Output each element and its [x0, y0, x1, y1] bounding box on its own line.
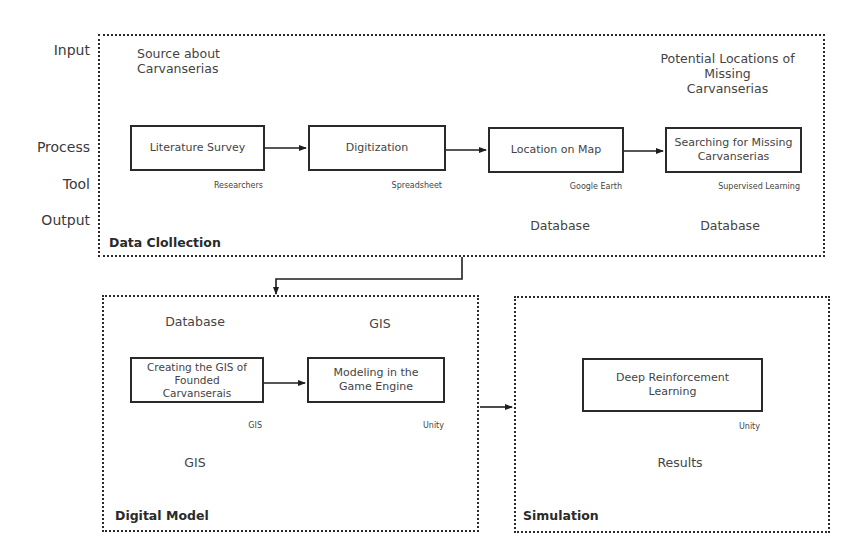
step-digitization: Digitization	[308, 125, 446, 171]
section-title-digital-model: Digital Model	[115, 508, 209, 523]
tool-label: GIS	[200, 421, 262, 430]
dc-output: Database	[670, 218, 790, 233]
step-label: Deep Reinforcement	[616, 371, 729, 385]
step-label: Creating the GIS of	[147, 361, 247, 374]
row-label-output: Output	[10, 212, 90, 228]
step-label: Founded	[174, 374, 219, 387]
dm-input-right: GIS	[350, 316, 410, 331]
tool-label: Researchers	[180, 181, 263, 190]
step-label: Carvanserais	[163, 387, 231, 400]
step-label: Searching for Missing	[675, 136, 793, 150]
step-label: Modeling in the	[333, 366, 418, 380]
dc-input-left-line: Carvanserias	[137, 61, 220, 76]
dc-input-right: Potential Locations of Missing Carvanser…	[640, 51, 815, 96]
arrow-data-collection-to-digital-model	[276, 257, 462, 294]
dc-input-left-line: Source about	[137, 46, 220, 61]
digital-model-section	[102, 295, 479, 532]
step-label: Digitization	[346, 141, 409, 155]
step-label: Literature Survey	[150, 141, 246, 155]
tool-label: Unity	[380, 421, 444, 430]
row-label-process: Process	[10, 139, 90, 155]
dc-output: Database	[500, 218, 620, 233]
tool-label: Supervised Learning	[680, 182, 800, 191]
dc-input-right-line: Missing	[640, 66, 815, 81]
row-label-tool: Tool	[10, 176, 90, 192]
section-title-data-collection: Data Clollection	[109, 235, 221, 250]
step-location-on-map: Location on Map	[488, 127, 624, 173]
tool-label: Unity	[700, 422, 760, 431]
step-label: Learning	[649, 385, 697, 399]
step-deep-reinforcement-learning: Deep Reinforcement Learning	[582, 358, 763, 412]
step-modeling-game-engine: Modeling in the Game Engine	[307, 357, 445, 403]
step-label: Carvanserias	[698, 150, 770, 164]
tool-label: Spreadsheet	[360, 181, 442, 190]
simulation-section	[514, 296, 830, 533]
dc-input-right-line: Carvanserias	[640, 81, 815, 96]
step-label: Location on Map	[511, 143, 601, 157]
section-title-simulation: Simulation	[523, 508, 599, 523]
dc-input-left: Source about Carvanserias	[137, 46, 220, 76]
step-creating-gis: Creating the GIS of Founded Carvanserais	[130, 357, 264, 403]
tool-label: Google Earth	[540, 182, 622, 191]
dm-input-left: Database	[150, 314, 240, 329]
sim-output: Results	[640, 455, 720, 470]
dc-input-right-line: Potential Locations of	[640, 51, 815, 66]
dm-output: GIS	[170, 455, 220, 470]
step-searching-missing: Searching for Missing Carvanserias	[665, 127, 802, 173]
step-label: Game Engine	[339, 380, 413, 394]
row-label-input: Input	[10, 42, 90, 58]
step-literature-survey: Literature Survey	[130, 125, 265, 171]
